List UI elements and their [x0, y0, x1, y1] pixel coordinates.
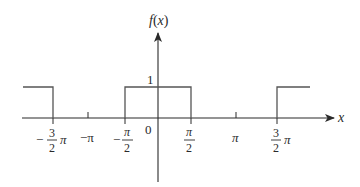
svg-text:2: 2: [49, 141, 55, 155]
svg-text:π: π: [284, 132, 291, 147]
origin-label: 0: [145, 122, 152, 137]
svg-text:2: 2: [273, 141, 279, 155]
x-tick-label-pi: π: [232, 130, 239, 145]
svg-text:3: 3: [49, 126, 55, 140]
pulse-right: [277, 87, 310, 118]
svg-text:2: 2: [186, 141, 192, 155]
x-tick-label-neg-pi-2: − π 2: [113, 125, 133, 155]
svg-text:π: π: [60, 132, 67, 147]
svg-text:π: π: [124, 125, 131, 139]
x-tick-label-3pi-2: 3 2 π: [271, 126, 291, 155]
svg-text:2: 2: [124, 141, 130, 155]
svg-text:−: −: [113, 132, 120, 147]
y-tick-label-one: 1: [147, 72, 154, 87]
svg-text:−: −: [36, 132, 43, 147]
square-wave: [23, 87, 310, 118]
svg-text:π: π: [186, 125, 193, 139]
svg-text:3: 3: [273, 126, 279, 140]
x-axis-label: x: [337, 110, 345, 125]
function-label: f(x): [149, 13, 169, 29]
x-tick-label-pi-2: π 2: [184, 125, 195, 155]
pulse-left: [23, 87, 53, 118]
x-tick-label-neg-3pi-2: − 3 2 π: [36, 126, 67, 155]
square-wave-diagram: f(x) x 1 0 − 3 2 π −π − π 2 π 2 π 3 2 π: [0, 0, 360, 187]
x-tick-label-neg-pi: −π: [80, 130, 94, 145]
